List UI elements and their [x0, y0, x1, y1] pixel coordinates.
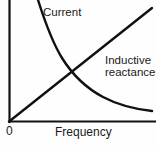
current-series-label: Current — [43, 7, 81, 19]
inductive-reactance-label-line2: reactance — [105, 67, 156, 79]
inductive-reactance-series-label: Inductivereactance — [105, 55, 156, 79]
chart-figure: Current Inductivereactance 0 Frequency — [0, 0, 156, 149]
x-axis-title: Frequency — [55, 127, 112, 139]
inductive-reactance-label-line1: Inductive — [105, 54, 151, 66]
origin-tick-label: 0 — [6, 126, 13, 138]
